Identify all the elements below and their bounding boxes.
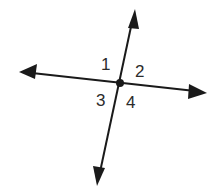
arrowhead-right (188, 84, 207, 99)
arrowhead-bottom (93, 166, 105, 186)
angle-label-1: 1 (101, 55, 110, 74)
arrowhead-left (19, 64, 37, 79)
line-shallow (32, 73, 195, 91)
angle-label-3: 3 (96, 91, 105, 110)
angle-label-2: 2 (135, 62, 144, 81)
intersection-point (116, 79, 124, 87)
arrowhead-top (128, 9, 139, 29)
intersecting-lines-diagram: 1 2 3 4 (0, 0, 220, 195)
angle-label-4: 4 (126, 93, 135, 112)
